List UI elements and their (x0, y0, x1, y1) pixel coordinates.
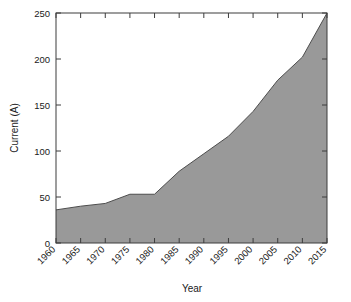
x-tick-label: 1995 (207, 244, 230, 267)
x-tick-label: 1975 (109, 244, 132, 267)
y-tick-label: 150 (34, 100, 50, 111)
x-axis-title: Year (182, 283, 203, 294)
x-tick-label: 2015 (306, 244, 329, 267)
x-tick-label: 2000 (232, 244, 255, 267)
y-tick-label: 200 (34, 54, 50, 65)
chart-figure: 050100150200250 196019651970197519801985… (0, 0, 351, 302)
y-axis-tick-labels: 050100150200250 (34, 8, 50, 249)
y-tick-label: 100 (34, 146, 50, 157)
x-tick-label: 1965 (59, 244, 82, 267)
x-tick-label: 1990 (183, 244, 206, 267)
x-tick-label: 1960 (35, 244, 58, 267)
area-chart: 050100150200250 196019651970197519801985… (0, 0, 351, 302)
x-tick-label: 1985 (158, 244, 181, 267)
y-tick-label: 50 (39, 192, 50, 203)
y-axis-title: Current (A) (9, 103, 20, 152)
x-tick-label: 1980 (133, 244, 156, 267)
x-tick-label: 2005 (256, 244, 279, 267)
x-tick-label: 1970 (84, 244, 107, 267)
x-tick-label: 2010 (281, 244, 304, 267)
x-axis-tick-labels: 1960196519701975198019851990199520002005… (35, 244, 329, 267)
y-tick-label: 250 (34, 8, 50, 19)
